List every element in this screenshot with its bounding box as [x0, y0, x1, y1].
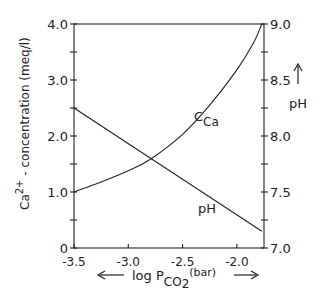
svg-text:4.0: 4.0: [47, 17, 68, 32]
svg-text:log PCO2(bar): log PCO2(bar): [132, 266, 216, 291]
svg-text:-2.0: -2.0: [225, 255, 248, 269]
svg-text:7.0: 7.0: [270, 241, 291, 256]
svg-text:9.0: 9.0: [270, 17, 291, 32]
svg-text:3.0: 3.0: [47, 73, 68, 88]
ph-line: [74, 108, 262, 231]
left-y-axis-ticks: 01.02.03.04.0: [47, 17, 77, 256]
right-y-axis-ticks: 7.07.58.08.59.0: [261, 17, 291, 256]
svg-text:-3.5: -3.5: [62, 255, 85, 269]
cca-series-label: CCa: [194, 109, 219, 129]
left-axis-label: Ca2+ - concentration (meq/l): [14, 37, 32, 210]
ph-series-label: pH: [198, 201, 216, 216]
svg-text:1.0: 1.0: [47, 185, 68, 200]
svg-text:2.0: 2.0: [47, 129, 68, 144]
cca-curve: [74, 24, 262, 192]
svg-text:-3.0: -3.0: [117, 255, 140, 269]
svg-text:8.0: 8.0: [270, 129, 291, 144]
right-axis-label: pH: [289, 64, 307, 111]
x-axis-label: log PCO2(bar): [98, 266, 258, 291]
svg-text:pH: pH: [289, 96, 307, 111]
svg-text:8.5: 8.5: [270, 73, 291, 88]
svg-text:7.5: 7.5: [270, 185, 291, 200]
chart: -3.5-3.0-2.5-2.0 01.02.03.04.0 7.07.58.0…: [0, 0, 322, 306]
series-lines: [74, 24, 262, 231]
svg-text:0: 0: [60, 241, 68, 256]
